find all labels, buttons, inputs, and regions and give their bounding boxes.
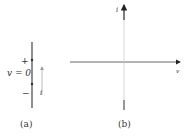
x-axis-label: v (176, 67, 180, 74)
y-axis-label: i (116, 6, 118, 14)
minus-sign: − (22, 88, 30, 98)
panel-b: i v (b) (70, 5, 180, 129)
caption-a: (a) (20, 119, 32, 129)
voltage-label: v = 0 (7, 68, 31, 78)
plus-sign: + (21, 56, 29, 66)
panel-a: + v = 0 − i (a) (7, 42, 42, 129)
terminal-bottom (31, 83, 33, 85)
caption-b: (b) (118, 119, 131, 129)
current-label: i (40, 89, 42, 97)
diagram-canvas: + v = 0 − i (a) i v (b) (0, 0, 185, 137)
terminal-top (31, 59, 33, 61)
